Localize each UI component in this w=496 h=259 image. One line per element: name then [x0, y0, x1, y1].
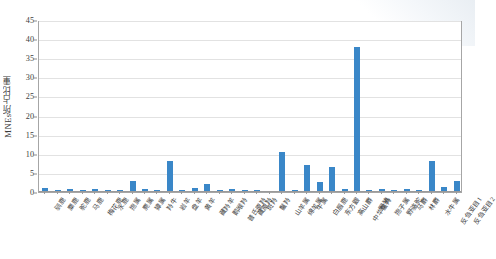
x-tick-mark [456, 191, 457, 194]
x-tick-mark [244, 191, 245, 194]
y-tick-mark-30 [33, 78, 37, 79]
x-tick-mark [344, 191, 345, 194]
bar [279, 152, 285, 192]
y-tick-mark-45 [33, 21, 37, 22]
x-axis-category-labels: 驯鹿麋鹿驼鹿马鹿梅花鹿水鹿狍属麂属獐属羚牛岩羊盘羊黄羊藏羚羊鹅喉羚普氏原羚藏原羚… [38, 194, 462, 259]
x-tick-mark [107, 191, 108, 194]
y-tick-mark-0 [33, 193, 37, 194]
bar [329, 167, 335, 192]
x-tick-mark [406, 191, 407, 194]
x-tick-mark [319, 191, 320, 194]
x-category-label: 鬣羚 [278, 196, 292, 211]
x-tick-mark [443, 191, 444, 194]
x-tick-mark [144, 191, 145, 194]
x-tick-mark [194, 191, 195, 194]
x-category-label: 麂属 [140, 196, 154, 211]
x-tick-mark [156, 191, 157, 194]
x-tick-mark [206, 191, 207, 194]
x-category-label: 林麝 [427, 196, 441, 211]
bar-slot [276, 152, 288, 192]
x-category-label: 岩羊 [178, 196, 192, 211]
x-category-label: 羚牛 [165, 196, 179, 211]
x-category-label: 驯鹿 [53, 196, 67, 211]
bar-slot [164, 161, 176, 192]
x-tick-mark [331, 191, 332, 194]
x-tick-mark [132, 191, 133, 194]
x-category-label: 驼鹿 [78, 196, 92, 211]
x-tick-mark [119, 191, 120, 194]
x-tick-mark [294, 191, 295, 194]
x-category-label: 马鹿 [90, 196, 104, 211]
x-category-label: 獐属 [153, 196, 167, 211]
x-axis-baseline [39, 191, 461, 192]
x-category-label: 盘羊 [190, 196, 204, 211]
y-tick-mark-15 [33, 135, 37, 136]
x-tick-mark [57, 191, 58, 194]
bar [167, 161, 173, 192]
x-category-label: 狍属 [128, 196, 142, 211]
y-tick-mark-5 [33, 173, 37, 174]
y-tick-mark-40 [33, 40, 37, 41]
plot-area [38, 21, 462, 193]
y-tick-mark-35 [33, 59, 37, 60]
x-tick-mark [219, 191, 220, 194]
x-tick-mark [44, 191, 45, 194]
bar [304, 165, 310, 192]
y-tick-mark-20 [33, 116, 37, 117]
bar-series [39, 22, 461, 192]
x-tick-mark [231, 191, 232, 194]
x-tick-mark [94, 191, 95, 194]
bar [429, 161, 435, 192]
x-category-label: 麋鹿 [66, 196, 80, 211]
x-tick-mark [181, 191, 182, 194]
x-tick-mark [431, 191, 432, 194]
x-tick-mark [418, 191, 419, 194]
y-tick-mark-10 [33, 154, 37, 155]
bar-slot [351, 47, 363, 192]
x-category-label: 水牛属 [443, 196, 461, 217]
x-tick-mark [256, 191, 257, 194]
x-tick-mark [356, 191, 357, 194]
bar-slot [301, 165, 313, 192]
y-tick-mark-25 [33, 97, 37, 98]
bar [354, 47, 360, 192]
x-tick-mark [169, 191, 170, 194]
y-axis-tick-labels: 051015202530354045 [0, 21, 38, 193]
x-tick-mark [69, 191, 70, 194]
bar-slot [326, 167, 338, 192]
x-tick-mark [306, 191, 307, 194]
x-tick-mark [82, 191, 83, 194]
x-tick-mark [368, 191, 369, 194]
x-tick-mark [281, 191, 282, 194]
x-tick-mark [381, 191, 382, 194]
bar-slot [426, 161, 438, 192]
x-category-label: 黄羊 [203, 196, 217, 211]
x-tick-mark [269, 191, 270, 194]
x-tick-mark [393, 191, 394, 194]
